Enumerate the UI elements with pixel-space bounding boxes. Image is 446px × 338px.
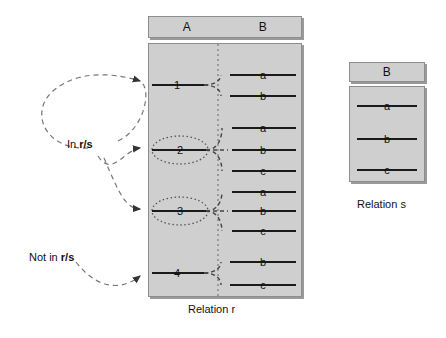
a-value-1: 1 <box>174 79 180 91</box>
fan-3-a <box>206 192 222 211</box>
a-value-4: 4 <box>174 267 180 279</box>
caption-relation-r-text: Relation r <box>188 303 235 315</box>
fan-3-c <box>206 211 222 231</box>
b-value-1-b: b <box>260 90 266 102</box>
b-value-2-c: c <box>260 165 266 177</box>
b-value-1-a: a <box>260 69 266 81</box>
caption-relation-s: Relation s <box>357 198 406 210</box>
b-value-3-c: c <box>260 225 266 237</box>
arrow-not-in-rs-row4 <box>76 262 140 285</box>
b-value-2-a: a <box>260 122 266 134</box>
b-value-2-b: b <box>260 144 266 156</box>
annotation-not-in-rs-bold: r/s <box>61 251 74 263</box>
diagram-canvas: A B B <box>0 0 446 338</box>
annotation-in-rs: In r/s <box>67 138 93 150</box>
fan-2-c <box>206 150 222 171</box>
arrow-in-rs-group2 <box>98 148 140 164</box>
annotation-in-rs-prefix: In <box>67 138 79 150</box>
s-value-a: a <box>384 100 390 112</box>
b-value-3-b: b <box>260 205 266 217</box>
annotation-not-in-rs: Not in r/s <box>29 251 74 263</box>
fan-4-b <box>204 262 221 273</box>
b-value-4-c: c <box>260 279 266 291</box>
arrow-in-rs-branch-up <box>118 82 146 141</box>
annotation-not-in-rs-prefix: Not in <box>29 251 61 263</box>
arrow-in-rs-group3 <box>104 158 140 209</box>
caption-relation-s-text: Relation s <box>357 198 406 210</box>
s-value-c: c <box>384 164 390 176</box>
a-value-3: 3 <box>177 205 183 217</box>
fan-2-a <box>206 128 222 150</box>
b-value-3-a: a <box>260 186 266 198</box>
a-value-2: 2 <box>177 144 183 156</box>
connector-layer <box>0 0 446 338</box>
b-value-4-b: b <box>260 256 266 268</box>
annotation-in-rs-bold: r/s <box>79 138 92 150</box>
caption-relation-r: Relation r <box>188 303 235 315</box>
fan-1-a <box>204 75 221 85</box>
s-value-b: b <box>384 133 390 145</box>
